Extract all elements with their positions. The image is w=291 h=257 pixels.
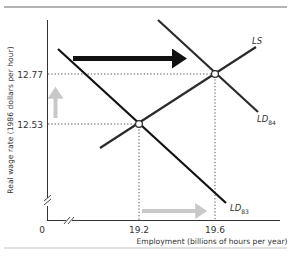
ld83-label: LD83 bbox=[230, 203, 249, 215]
guide-lines bbox=[48, 74, 215, 220]
equilibrium-1983-point bbox=[136, 121, 143, 128]
ls-label: LS bbox=[252, 36, 263, 46]
chart: LS LD84 LD83 12.77 12.53 0 19.2 19.6 Emp… bbox=[0, 0, 291, 257]
x-tick-19-2: 19.2 bbox=[129, 225, 149, 235]
x-tick-19-6: 19.6 bbox=[205, 225, 225, 235]
origin-label: 0 bbox=[39, 225, 45, 235]
ld84-label: LD84 bbox=[257, 114, 276, 126]
ls-curve bbox=[100, 47, 256, 148]
x-axis-title: Employment (billions of hours per year) bbox=[136, 237, 287, 246]
y-tick-12-53: 12.53 bbox=[17, 120, 43, 130]
x-axis bbox=[47, 217, 280, 224]
equilibrium-1984-point bbox=[212, 71, 219, 78]
y-axis bbox=[44, 20, 51, 221]
y-axis-title: Real wage rate (1986 dollars per hour) bbox=[6, 46, 15, 193]
y-tick-12-77: 12.77 bbox=[17, 70, 43, 80]
ld84-curve bbox=[158, 20, 258, 112]
